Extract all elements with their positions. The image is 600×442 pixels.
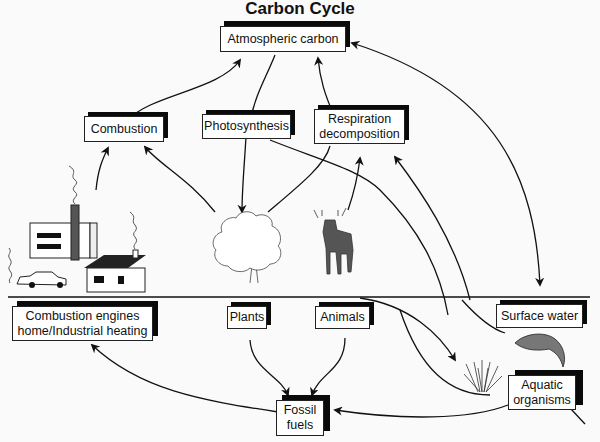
tree-icon	[213, 212, 281, 283]
factory-icon	[30, 166, 97, 260]
fish-icon	[515, 334, 565, 367]
deer-icon	[314, 208, 353, 274]
seaweed-icon	[464, 360, 502, 392]
